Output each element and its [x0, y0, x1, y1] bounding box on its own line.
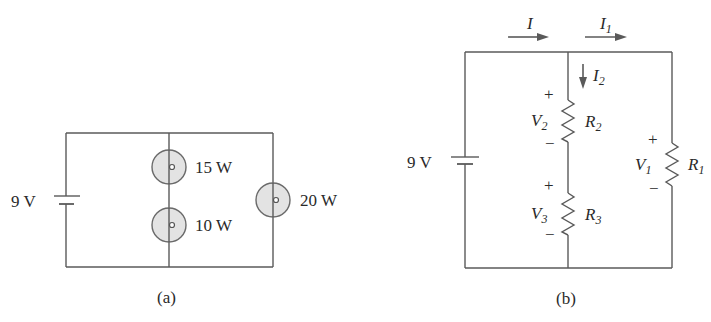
- circuit-figure: 9 V 15 W 10 W 20 W (a): [0, 0, 711, 322]
- circuit-a: 9 V 15 W 10 W 20 W (a): [11, 133, 338, 307]
- source-label-a: 9 V: [11, 192, 36, 211]
- arrowhead-i2: [579, 77, 587, 89]
- resistor-label-r1: R1: [687, 155, 704, 177]
- minus-v3: −: [545, 225, 555, 244]
- caption-b: (b): [556, 289, 576, 308]
- current-label-i1: I1: [599, 14, 612, 36]
- minus-v2: −: [545, 134, 555, 153]
- lamp-icon-10w: [152, 208, 186, 242]
- plus-v1: +: [648, 130, 658, 149]
- voltage-label-v1: V1: [635, 155, 651, 177]
- plus-v2: +: [544, 85, 554, 104]
- lamp-icon-20w: [256, 183, 290, 217]
- current-label-i: I: [526, 14, 534, 33]
- plus-v3: +: [544, 176, 554, 195]
- resistor-icon-r1: [666, 143, 678, 186]
- current-label-i2: I2: [592, 66, 605, 88]
- voltage-label-v3: V3: [531, 204, 547, 226]
- arrowhead-i: [537, 33, 549, 41]
- voltage-label-v2: V2: [531, 111, 547, 133]
- source-label-b: 9 V: [407, 153, 432, 172]
- lamp-label-20w: 20 W: [300, 191, 338, 210]
- resistor-icon-r2: [562, 100, 574, 142]
- arrowhead-i1: [615, 33, 627, 41]
- lamp-label-15w: 15 W: [195, 158, 233, 177]
- lamp-label-10w: 10 W: [195, 216, 233, 235]
- caption-a: (a): [157, 288, 176, 307]
- lamp-icon-15w: [152, 150, 186, 184]
- battery-icon-b: [451, 157, 479, 164]
- resistor-label-r3: R3: [584, 205, 601, 227]
- circuit-b: 9 V I I1 I2 + V2 − R2 + V3 − R3: [407, 14, 704, 308]
- resistor-icon-r3: [562, 193, 574, 235]
- resistor-label-r2: R2: [584, 112, 601, 134]
- minus-v1: −: [649, 179, 659, 198]
- battery-icon: [54, 196, 80, 204]
